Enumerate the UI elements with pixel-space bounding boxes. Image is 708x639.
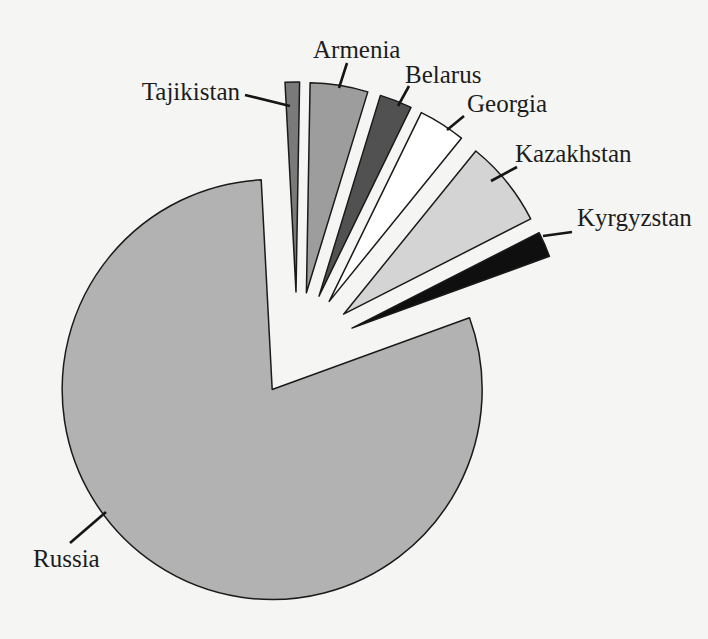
slice-label-georgia: Georgia	[467, 90, 547, 117]
leader-line-kyrgyzstan	[543, 232, 572, 236]
leader-line-russia	[70, 512, 106, 543]
leader-line-tajikistan	[245, 95, 290, 106]
figure-page: TajikistanArmeniaBelarusGeorgiaKazakhsta…	[0, 0, 708, 639]
slice-label-tajikistan: Tajikistan	[142, 78, 241, 105]
pie-slice-tajikistan	[285, 82, 300, 292]
slice-label-kyrgyzstan: Kyrgyzstan	[577, 204, 692, 231]
leader-line-armenia	[339, 63, 347, 88]
slice-label-kazakhstan: Kazakhstan	[515, 140, 632, 167]
slice-label-russia: Russia	[33, 545, 100, 572]
leader-line-georgia	[447, 116, 464, 130]
slice-label-belarus: Belarus	[405, 61, 481, 88]
leader-line-belarus	[398, 86, 409, 106]
slice-label-armenia: Armenia	[313, 36, 400, 63]
pie-chart-figure: TajikistanArmeniaBelarusGeorgiaKazakhsta…	[0, 0, 708, 639]
pie-slices-group	[62, 82, 549, 600]
